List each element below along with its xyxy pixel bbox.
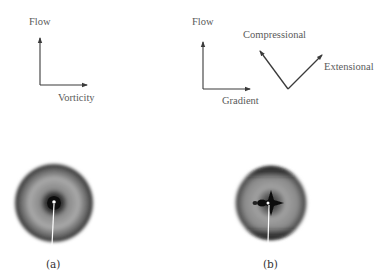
- axes-flow-vorticity: [40, 38, 87, 85]
- diffraction-pattern-b: [233, 164, 309, 243]
- flow-label-a: Flow: [29, 17, 51, 28]
- diagram-canvas: [0, 0, 391, 275]
- beam-center: [52, 200, 56, 204]
- extensional-label: Extensional: [324, 62, 374, 73]
- flow-label-b: Flow: [192, 17, 214, 28]
- axes-flow-gradient: [203, 42, 250, 89]
- principal-strain-axes: [260, 51, 322, 89]
- compressional-axis-arrow: [260, 51, 288, 89]
- beam-center: [267, 202, 270, 205]
- gradient-label: Gradient: [222, 96, 259, 107]
- vorticity-label: Vorticity: [58, 93, 95, 104]
- caption-b: (b): [263, 259, 278, 270]
- extensional-axis-arrow: [288, 55, 322, 89]
- diffraction-pattern-a: [13, 162, 95, 245]
- compressional-label: Compressional: [243, 30, 306, 41]
- caption-a: (a): [46, 259, 60, 270]
